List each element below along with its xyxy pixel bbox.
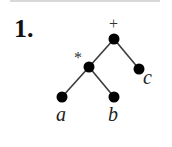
edge-root-star: [89, 39, 114, 67]
node-star: [84, 62, 95, 73]
node-b: [109, 92, 120, 103]
tree-edges: [62, 39, 139, 97]
expression-tree: + * c a b: [0, 0, 172, 147]
edge-star-b: [89, 67, 114, 97]
leaf-label-b: b: [108, 103, 118, 125]
tree-nodes: [57, 34, 145, 103]
leaf-label-c: c: [143, 66, 152, 88]
edge-root-c: [114, 39, 139, 69]
node-a: [57, 92, 68, 103]
node-root: [109, 34, 120, 45]
root-operator-label: +: [109, 15, 118, 32]
internal-operator-label: *: [74, 49, 82, 66]
leaf-label-a: a: [56, 103, 66, 125]
edge-star-a: [62, 67, 89, 97]
